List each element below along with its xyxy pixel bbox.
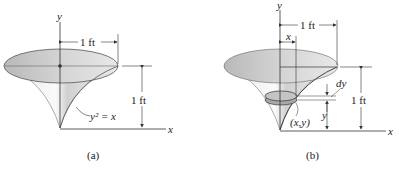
- y-axis-label: y: [56, 10, 62, 22]
- caption-b: (b): [306, 149, 319, 162]
- diagram-canvas: y x 1 ft 1 ft y² = x (a) y x: [0, 0, 399, 175]
- height-dimension: 1 ft: [351, 94, 366, 106]
- figure-a: y x 1 ft 1 ft y² = x (a): [4, 10, 173, 162]
- figure-b: y x 1 ft x dy y (x,y) 1 ft (b): [224, 0, 393, 162]
- y-label: y: [321, 109, 327, 121]
- y-axis-label: y: [276, 0, 282, 11]
- top-surface: [224, 49, 338, 83]
- dy-label: dy: [336, 77, 347, 89]
- caption-a: (a): [87, 149, 100, 162]
- radius-label: x: [285, 30, 291, 42]
- top-dimension: 1 ft: [80, 36, 95, 48]
- top-dimension: 1 ft: [300, 19, 315, 31]
- x-axis-label: x: [167, 123, 173, 135]
- curve-label: y² = x: [89, 110, 116, 122]
- height-dimension: 1 ft: [131, 94, 146, 106]
- x-axis-label: x: [387, 125, 393, 137]
- point-label: (x,y): [290, 116, 310, 129]
